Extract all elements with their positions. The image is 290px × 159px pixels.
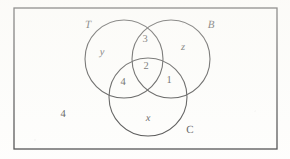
region-label-c-only: x xyxy=(146,114,151,125)
set-label-t: T xyxy=(85,20,91,31)
set-label-b: B xyxy=(208,20,215,31)
region-label-outside: 4 xyxy=(60,110,65,121)
region-label-t-and-c: 4 xyxy=(120,78,125,89)
region-label-t-and-b: 3 xyxy=(142,35,147,46)
region-label-b-only: z xyxy=(181,43,185,54)
region-label-t-only: y xyxy=(100,48,105,59)
set-label-c: C xyxy=(186,125,193,136)
venn-diagram-figure: T B C y z x 3 4 1 2 4 xyxy=(0,0,290,159)
region-label-t-b-and-c: 2 xyxy=(143,62,148,73)
region-label-b-and-c: 1 xyxy=(166,76,171,87)
venn-diagram-canvas xyxy=(0,0,290,159)
set-circle-b xyxy=(132,20,210,98)
